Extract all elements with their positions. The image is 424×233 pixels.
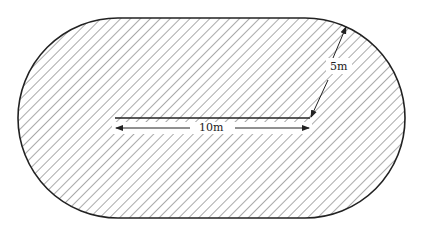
stadium-diagram: [0, 0, 424, 233]
radius-label: 5m: [328, 61, 349, 73]
length-label: 10m: [197, 122, 225, 134]
